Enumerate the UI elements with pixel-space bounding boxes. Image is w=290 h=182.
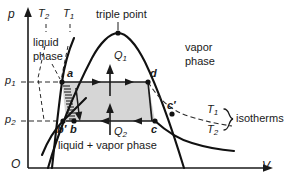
isotherm-t1-vapor-branch: [148, 82, 232, 126]
p2-label: p2: [5, 114, 16, 128]
point-d-marker: [145, 79, 150, 84]
point-c-label: c: [151, 124, 157, 136]
x-axis-label: V: [262, 160, 270, 173]
isotherm-t1-label: T1: [207, 104, 218, 118]
vapor-phase-label-line2: phase: [185, 56, 215, 68]
iso-t2-symbol: T: [207, 123, 214, 135]
isotherm-t2-vapor-branch: [155, 121, 234, 151]
isotherms-legend-label: isotherms: [236, 113, 284, 125]
y-axis-label: p: [8, 8, 15, 21]
iso-t1-subscript: 1: [214, 108, 218, 117]
point-b-prime-label: b′: [57, 124, 66, 136]
q2-label: Q2: [114, 126, 127, 140]
q1-symbol: Q: [114, 49, 123, 61]
origin-label: O: [11, 158, 20, 171]
cycle-shaded-area: [62, 82, 155, 121]
t2-top-symbol: T: [38, 7, 45, 19]
p1-subscript: 1: [11, 79, 15, 88]
point-b-label: b: [70, 124, 77, 136]
isotherms-brace: [224, 109, 233, 130]
liquid-phase-label-line1: liquid: [33, 37, 59, 49]
t1-top-subscript: 1: [70, 12, 74, 21]
q2-symbol: Q: [114, 125, 123, 137]
point-c-prime-label: c′: [167, 100, 176, 112]
point-a-label: a: [67, 68, 73, 80]
q1-subscript: 1: [123, 54, 127, 63]
t1-top-symbol: T: [63, 7, 70, 19]
point-d-label: d: [150, 68, 157, 80]
point-c-prime-marker: [169, 111, 174, 116]
liquid-phase-label-line2: phase: [33, 51, 63, 63]
y-axis-arrowhead: [24, 7, 32, 17]
liquid-phase-leader-line: [52, 64, 60, 79]
q2-subscript: 2: [123, 130, 127, 139]
t2-top-subscript: 2: [45, 12, 49, 21]
iso-t2-subscript: 2: [214, 128, 218, 137]
isotherm-t2-label: T2: [207, 124, 218, 138]
iso-t1-symbol: T: [207, 103, 214, 115]
brace-path: [224, 109, 233, 130]
t2-top-label: T2: [38, 8, 49, 22]
liquid-phase-leader: [52, 64, 60, 79]
t1-top-label: T1: [63, 8, 74, 22]
p2-subscript: 2: [11, 118, 15, 127]
pv-diagram-svg: [0, 0, 290, 182]
q1-arrow-head: [106, 64, 114, 74]
triple-point-label: triple point: [96, 9, 147, 21]
phase-diagram-figure: p V O p1 p2 T2 T1 triple point liquid ph…: [0, 0, 290, 182]
triple-point-marker: [115, 30, 120, 35]
vapor-phase-label-line1: vapor: [185, 42, 213, 54]
q1-label: Q1: [114, 50, 127, 64]
point-a-marker: [59, 79, 64, 84]
liquid-vapor-phase-label: liquid + vapor phase: [58, 140, 157, 152]
p1-label: p1: [5, 75, 16, 89]
